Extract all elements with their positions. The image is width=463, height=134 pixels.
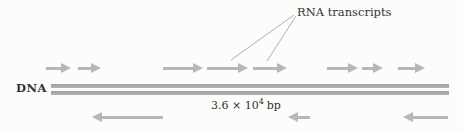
arrow-shaft <box>411 116 448 119</box>
rna-transcript-arrow-right <box>163 63 203 73</box>
rna-transcript-arrow-left <box>92 112 163 122</box>
arrow-head <box>61 63 71 73</box>
arrow-head <box>415 63 425 73</box>
dna-label: DNA <box>16 82 47 95</box>
arrow-shaft <box>296 116 310 119</box>
rna-transcript-arrow-left <box>288 112 310 122</box>
arrow-shaft <box>207 67 240 70</box>
arrow-shaft <box>163 67 195 70</box>
arrow-head <box>277 63 287 73</box>
rna-transcript-arrow-right <box>327 63 358 73</box>
dna-length-exponent: 4 <box>259 97 264 106</box>
rna-transcript-arrow-right <box>253 63 287 73</box>
dna-transcription-diagram: RNA transcripts DNA 3.6 × 104bp <box>0 0 463 134</box>
rna-transcript-arrow-right <box>362 63 383 73</box>
arrow-head <box>403 112 413 122</box>
rna-transcript-arrow-right <box>46 63 71 73</box>
arrow-shaft <box>253 67 279 70</box>
arrow-head <box>288 112 298 122</box>
dna-length-unit: bp <box>267 99 281 112</box>
rna-transcript-arrow-left <box>403 112 448 122</box>
arrow-head <box>91 63 101 73</box>
rna-transcripts-label: RNA transcripts <box>297 6 391 19</box>
arrow-head <box>193 63 203 73</box>
dna-length-label: 3.6 × 104bp <box>211 99 281 112</box>
arrow-shaft <box>327 67 350 70</box>
leader-line-left <box>231 15 294 60</box>
dna-length-base: 3.6 × 10 <box>211 99 259 112</box>
leader-line-right <box>267 16 296 61</box>
dna-strand-bottom <box>51 91 449 95</box>
rna-transcript-arrow-right <box>207 63 248 73</box>
rna-transcript-arrow-right <box>78 63 101 73</box>
arrow-head <box>373 63 383 73</box>
rna-transcript-arrow-right <box>398 63 425 73</box>
arrow-head <box>238 63 248 73</box>
dna-strand-top <box>51 84 449 88</box>
arrow-head <box>348 63 358 73</box>
arrow-shaft <box>100 116 163 119</box>
arrow-head <box>92 112 102 122</box>
